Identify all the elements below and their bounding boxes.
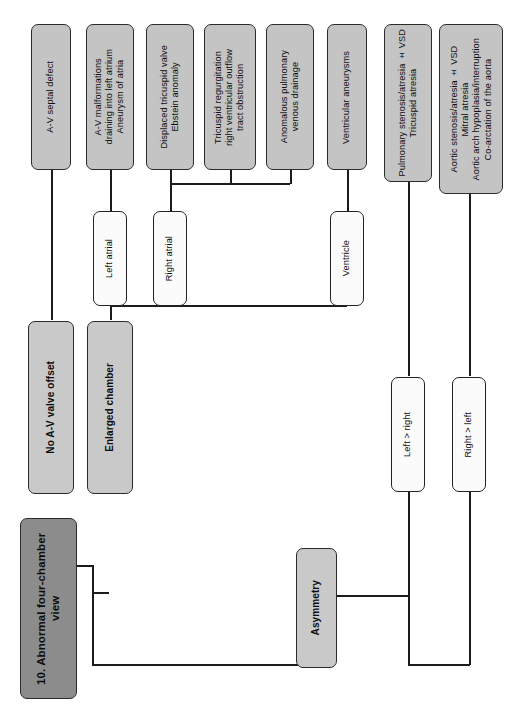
- node-enlarged-chamber-label: Enlarged chamber: [104, 363, 116, 452]
- connector-chamber-bus: [110, 305, 347, 307]
- node-pulmonary-stenosis[interactable]: Pulmonary stenosis/atresia ± VSD Tricusp…: [384, 24, 432, 182]
- connector-bus-to-tricuspid-regurg: [230, 170, 232, 184]
- connector-noav-to-avsd: [51, 170, 53, 320]
- node-anomalous-pulmonary-venous-drainage-label: Anomalous pulmonary venous drainage: [279, 50, 301, 143]
- connector-ventricle-to-aneurysms: [347, 170, 349, 212]
- node-right-greater-left-label: Right > left: [463, 412, 474, 457]
- node-displaced-tricuspid-valve[interactable]: Displaced tricuspid valve Ebstein anomal…: [146, 24, 194, 170]
- node-right-atrial[interactable]: Right atrial: [153, 211, 187, 306]
- connector-asymmetry-bus: [408, 595, 410, 665]
- connector-bus-riser-left-right: [408, 492, 410, 596]
- node-asymmetry[interactable]: Asymmetry: [296, 548, 337, 668]
- node-left-greater-right[interactable]: Left > right: [391, 377, 425, 492]
- connector-root-spine: [92, 565, 94, 665]
- node-left-greater-right-label: Left > right: [402, 412, 413, 457]
- node-enlarged-chamber[interactable]: Enlarged chamber: [87, 321, 133, 494]
- node-right-greater-left[interactable]: Right > left: [452, 377, 486, 492]
- connector-bus-to-displaced: [170, 170, 172, 184]
- node-anomalous-pulmonary-venous-drainage[interactable]: Anomalous pulmonary venous drainage: [266, 24, 314, 170]
- node-aortic-stenosis-label: Aortic stenosis/atresia ± VSD Mitral atr…: [449, 38, 494, 180]
- node-root[interactable]: 10. Abnormal four-chamber view: [20, 518, 77, 699]
- connector-rightleft-to-aortic: [469, 170, 471, 376]
- node-right-atrial-label: Right atrial: [164, 236, 175, 281]
- flowchart-canvas: 10. Abnormal four-chamber view No A-V va…: [0, 0, 531, 722]
- connector-bus-to-right-left: [408, 664, 470, 666]
- connector-root-to-asymmetry: [92, 664, 306, 666]
- node-no-av-valve-offset-label: No A-V valve offset: [45, 361, 57, 454]
- node-av-septal-defect-label: A-V septal defect: [45, 61, 56, 133]
- connector-root-to-noav: [77, 565, 93, 567]
- node-av-malformations[interactable]: A-V malformations draining into left atr…: [86, 24, 134, 170]
- connector-asymmetry-to-bus: [337, 595, 409, 597]
- node-ventricular-aneurysms[interactable]: Ventricular aneurysms: [327, 24, 367, 170]
- connector-left-atrial-to-avm: [110, 170, 112, 212]
- node-no-av-valve-offset[interactable]: No A-V valve offset: [28, 321, 74, 494]
- connector-right-atrial-up: [170, 183, 172, 212]
- node-ventricle[interactable]: Ventricle: [330, 211, 364, 306]
- node-tricuspid-regurgitation-label: Tricuspid regurgitation right ventricula…: [213, 49, 247, 146]
- node-tricuspid-regurgitation[interactable]: Tricuspid regurgitation right ventricula…: [204, 24, 256, 170]
- connector-leftright-to-pulmonary: [408, 170, 410, 376]
- node-root-label: 10. Abnormal four-chamber view: [34, 519, 62, 698]
- node-ventricle-label: Ventricle: [341, 240, 352, 276]
- connector-root-to-enlarged: [92, 592, 109, 594]
- node-av-septal-defect[interactable]: A-V septal defect: [31, 24, 71, 170]
- connector-bus-riser-right-left: [469, 492, 471, 665]
- node-displaced-tricuspid-valve-label: Displaced tricuspid valve Ebstein anomal…: [159, 45, 181, 149]
- connector-enlarged-up: [110, 305, 112, 320]
- node-pulmonary-stenosis-label: Pulmonary stenosis/atresia ± VSD Tricusp…: [397, 29, 419, 177]
- node-asymmetry-label: Asymmetry: [310, 580, 322, 635]
- node-left-atrial[interactable]: Left atrial: [93, 211, 127, 306]
- node-ventricular-aneurysms-label: Ventricular aneurysms: [341, 51, 352, 144]
- connector-bus-to-anomalous-pulm: [290, 170, 292, 184]
- node-av-malformations-label: A-V malformations draining into left atr…: [93, 49, 127, 144]
- node-aortic-stenosis[interactable]: Aortic stenosis/atresia ± VSD Mitral atr…: [439, 24, 503, 194]
- node-left-atrial-label: Left atrial: [104, 239, 115, 278]
